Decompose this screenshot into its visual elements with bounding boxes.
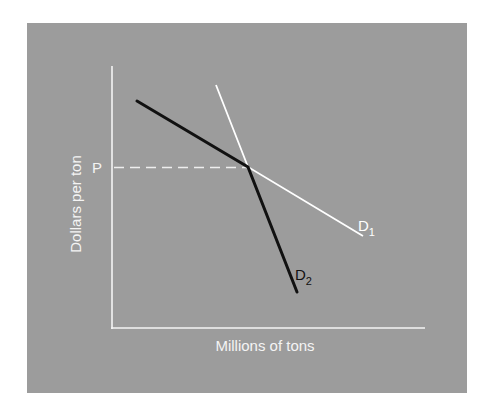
d2-label: D2 bbox=[295, 266, 312, 287]
d2-label-sub: 2 bbox=[306, 275, 312, 287]
x-axis-title: Millions of tons bbox=[215, 337, 314, 354]
d2-label-main: D bbox=[295, 266, 306, 283]
price-label: P bbox=[92, 159, 102, 176]
y-axis-title: Dollars per ton bbox=[67, 155, 84, 253]
d2-curve bbox=[137, 101, 297, 292]
d1-label-sub: 1 bbox=[369, 226, 375, 238]
d1-label-main: D bbox=[358, 217, 369, 234]
demand-curves-chart: P D1 D2 Dollars per ton Millions of tons bbox=[0, 0, 490, 412]
